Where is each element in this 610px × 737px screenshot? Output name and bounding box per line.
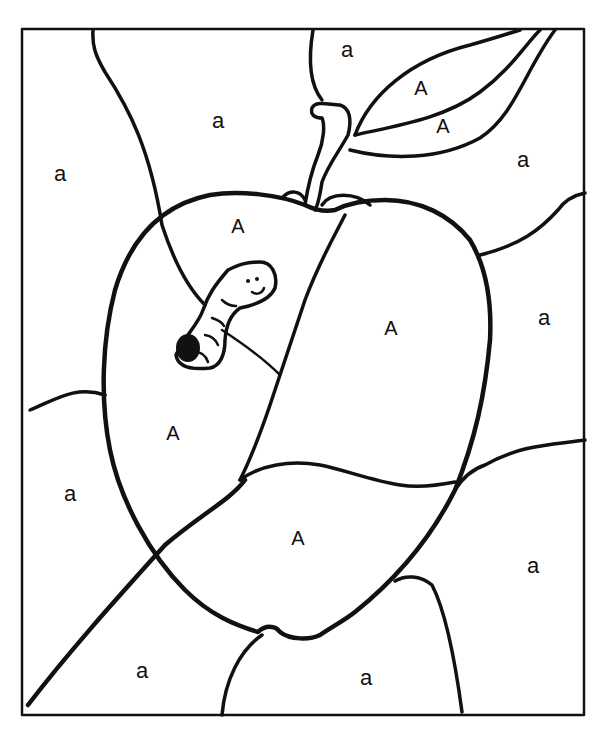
worm-smile <box>252 288 264 294</box>
label-apple-top: A <box>231 215 245 237</box>
divider-right-upper <box>480 193 585 255</box>
divider-right-middle <box>455 440 585 490</box>
divider-top-left-curve <box>93 30 205 305</box>
divider-top-right-corner <box>310 30 322 100</box>
label-apple-bottom: A <box>291 527 305 549</box>
label-bg-right-middle: a <box>538 305 551 330</box>
label-apple-right: A <box>384 317 398 339</box>
worm-eye-left <box>246 279 250 283</box>
worm-segment-1 <box>222 300 236 306</box>
divider-bottom-hill-left <box>222 635 262 715</box>
apple-divider-wavy <box>240 463 455 486</box>
label-bg-bottom-left: a <box>136 658 149 683</box>
label-bg-top-left: a <box>54 161 67 186</box>
label-bg-bottom-center: a <box>360 665 373 690</box>
label-bg-right-upper: a <box>517 147 530 172</box>
apple-divider-worm-line <box>222 330 280 375</box>
label-bg-left-middle: a <box>64 481 77 506</box>
worm-segment-3 <box>205 335 218 345</box>
letter-labels: a a a A A a A A a A a A a a a <box>54 37 551 690</box>
label-bg-right-lower: a <box>527 553 540 578</box>
label-bg-top-right-corner: a <box>341 37 354 62</box>
divider-bottom-hill-right <box>395 577 462 712</box>
apple-divider-center <box>240 215 345 480</box>
label-bg-top-center: a <box>212 108 225 133</box>
apple-outline <box>104 193 491 638</box>
label-apple-left: A <box>166 422 180 444</box>
worm-segment-2 <box>212 318 224 326</box>
label-leaf-upper: A <box>414 77 428 99</box>
worm-eye-right <box>255 277 259 281</box>
label-leaf-lower: A <box>436 115 450 137</box>
divider-left-middle <box>30 392 105 410</box>
coloring-page: a a a A A a A A a A a A a a a <box>0 0 610 737</box>
worm <box>176 262 276 369</box>
